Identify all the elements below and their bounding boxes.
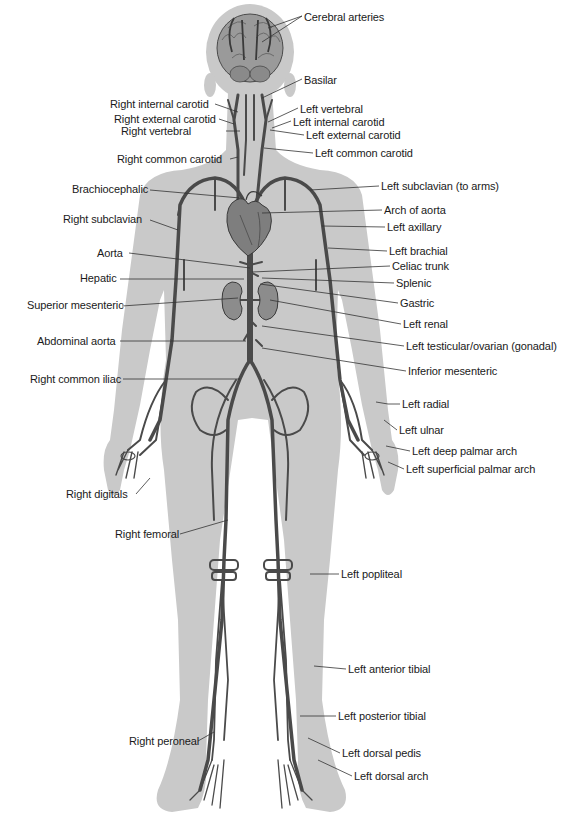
label-left-subclavian: Left subclavian (to arms) bbox=[381, 180, 499, 193]
label-left-gonadal: Left testicular/ovarian (gonadal) bbox=[406, 340, 557, 353]
label-left-superficial-palmar-arch: Left superficial palmar arch bbox=[406, 463, 535, 476]
label-left-common-carotid: Left common carotid bbox=[315, 147, 413, 160]
label-abdominal-aorta: Abdominal aorta bbox=[37, 335, 116, 348]
label-basilar: Basilar bbox=[304, 74, 337, 87]
label-left-ulnar: Left ulnar bbox=[399, 424, 444, 437]
label-left-dorsal-arch: Left dorsal arch bbox=[354, 770, 428, 783]
label-right-femoral: Right femoral bbox=[115, 528, 179, 541]
label-left-vertebral: Left vertebral bbox=[300, 103, 363, 116]
label-inferior-mesenteric: Inferior mesenteric bbox=[408, 365, 497, 378]
label-arch-of-aorta: Arch of aorta bbox=[384, 204, 446, 217]
arterial-system-diagram: Cerebral arteries Basilar Right internal… bbox=[0, 0, 581, 834]
label-left-dorsal-pedis: Left dorsal pedis bbox=[342, 747, 421, 760]
label-right-common-iliac: Right common iliac bbox=[30, 373, 121, 386]
body-illustration bbox=[0, 0, 581, 834]
label-cerebral-arteries: Cerebral arteries bbox=[304, 11, 384, 24]
label-right-digitals: Right digitals bbox=[66, 488, 128, 501]
label-superior-mesenteric: Superior mesenteric bbox=[27, 299, 124, 312]
label-right-vertebral: Right vertebral bbox=[121, 125, 191, 138]
label-left-radial: Left radial bbox=[402, 398, 449, 411]
label-right-peroneal: Right peroneal bbox=[129, 735, 199, 748]
label-brachiocephalic: Brachiocephalic bbox=[72, 183, 148, 196]
label-gastric: Gastric bbox=[400, 297, 434, 310]
label-left-anterior-tibial: Left anterior tibial bbox=[348, 663, 430, 676]
label-left-popliteal: Left popliteal bbox=[341, 568, 402, 581]
label-right-internal-carotid: Right internal carotid bbox=[110, 98, 209, 111]
label-celiac-trunk: Celiac trunk bbox=[392, 260, 449, 273]
label-left-axillary: Left axillary bbox=[387, 221, 441, 234]
label-left-deep-palmar-arch: Left deep palmar arch bbox=[412, 445, 517, 458]
label-left-posterior-tibial: Left posterior tibial bbox=[338, 710, 426, 723]
label-left-renal: Left renal bbox=[403, 318, 448, 331]
label-right-subclavian: Right subclavian bbox=[63, 213, 142, 226]
label-splenic: Splenic bbox=[396, 277, 431, 290]
label-left-internal-carotid: Left internal carotid bbox=[293, 116, 384, 129]
label-aorta: Aorta bbox=[97, 247, 123, 260]
label-right-common-carotid: Right common carotid bbox=[117, 153, 222, 166]
label-left-external-carotid: Left external carotid bbox=[306, 129, 401, 142]
label-left-brachial: Left brachial bbox=[389, 245, 448, 258]
label-hepatic: Hepatic bbox=[80, 272, 117, 285]
brain bbox=[217, 14, 283, 82]
